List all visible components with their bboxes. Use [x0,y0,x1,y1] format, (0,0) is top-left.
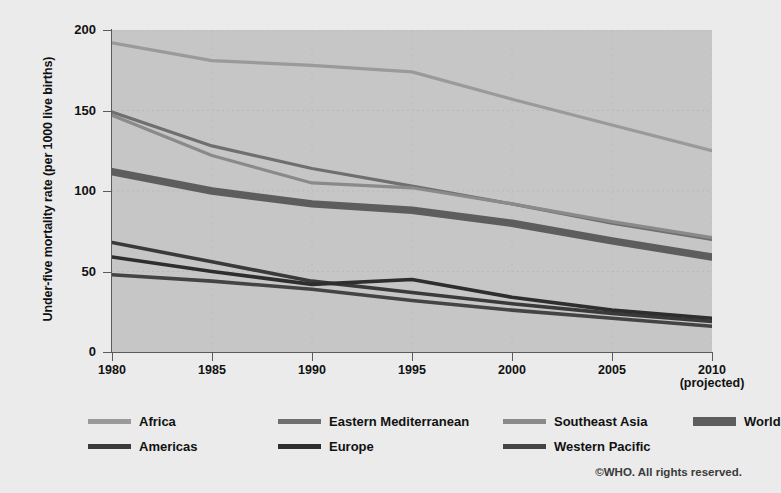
legend-label: Eastern Mediterranean [329,415,469,428]
legend-swatch [278,419,321,424]
y-tick-mark [103,111,112,112]
legend-swatch [503,419,546,424]
legend-label: Western Pacific [554,440,651,453]
legend-swatch [88,444,131,449]
x-tick-label: 2000 [472,364,552,377]
x-tick-mark [212,353,213,361]
legend: AfricaEastern MediterraneanSoutheast Asi… [88,415,728,463]
series-line-europe [112,257,712,318]
y-tick-mark [103,191,112,192]
y-tick-label: 100 [36,184,96,197]
x-tick-label-year: 2005 [598,363,626,377]
legend-swatch [503,444,546,449]
legend-item-europe[interactable]: Europe [278,440,374,453]
x-tick-label-year: 1995 [398,363,426,377]
x-tick-label-year: 2000 [498,363,526,377]
x-tick-label: 1990 [272,364,352,377]
y-tick-label: 0 [36,345,96,358]
legend-item-western-pacific[interactable]: Western Pacific [503,440,651,453]
x-tick-label-year: 1990 [298,363,326,377]
y-tick-mark [103,30,112,31]
plot-area [112,30,712,352]
legend-item-eastern-mediterranean[interactable]: Eastern Mediterranean [278,415,469,428]
legend-label: World [744,415,781,428]
x-tick-mark [512,353,513,361]
legend-swatch [88,419,131,424]
y-tick-mark [103,272,112,273]
legend-label: Southeast Asia [554,415,647,428]
x-tick-mark [712,353,713,361]
x-tick-mark [412,353,413,361]
x-tick-label-year: 1980 [98,363,126,377]
x-tick-label-projected: (projected) [672,377,752,390]
x-tick-label: 2010(projected) [672,364,752,390]
legend-swatch [278,444,321,449]
legend-swatch [693,417,736,426]
plot-svg [112,30,712,352]
y-tick-label: 200 [36,23,96,36]
x-tick-label: 1995 [372,364,452,377]
legend-item-americas[interactable]: Americas [88,440,198,453]
legend-item-world[interactable]: World [693,415,781,428]
x-tick-label: 2005 [572,364,652,377]
legend-item-southeast-asia[interactable]: Southeast Asia [503,415,647,428]
x-tick-label-year: 2010 [698,363,726,377]
y-tick-label: 50 [36,265,96,278]
x-tick-label: 1980 [72,364,152,377]
legend-label: Americas [139,440,198,453]
legend-item-africa[interactable]: Africa [88,415,176,428]
x-tick-mark [312,353,313,361]
series-line-world [112,172,712,257]
copyright-notice: ©WHO. All rights reserved. [0,466,742,478]
x-tick-label-year: 1985 [198,363,226,377]
x-tick-mark [112,353,113,361]
legend-label: Africa [139,415,176,428]
y-tick-mark [103,352,112,353]
x-tick-label: 1985 [172,364,252,377]
x-tick-mark [612,353,613,361]
y-tick-label: 150 [36,104,96,117]
legend-label: Europe [329,440,374,453]
